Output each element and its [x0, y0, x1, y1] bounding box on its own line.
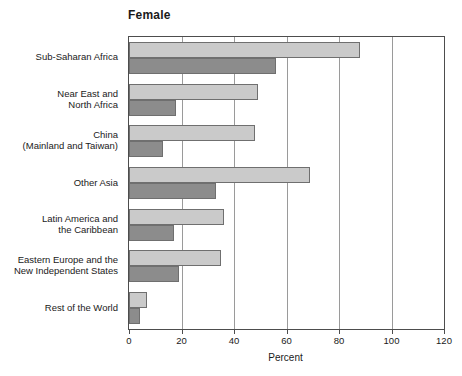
bar — [129, 250, 221, 266]
x-ticklabel: 40 — [229, 335, 240, 346]
x-ticklabel: 120 — [436, 335, 452, 346]
bar-group — [129, 209, 444, 241]
x-axis-ticks: 020406080100120 — [128, 329, 445, 347]
y-axis-label: Sub-Saharan Africa — [0, 51, 118, 62]
x-ticklabel: 20 — [176, 335, 187, 346]
bar-group — [129, 167, 444, 199]
y-axis-label: China (Mainland and Taiwan) — [0, 129, 118, 151]
y-axis-label: Rest of the World — [0, 302, 118, 313]
x-tickmark — [234, 329, 235, 334]
bar — [129, 183, 216, 199]
x-ticklabel: 80 — [334, 335, 345, 346]
bar — [129, 100, 176, 116]
bar-group — [129, 250, 444, 282]
x-axis-title: Percent — [128, 352, 443, 363]
y-axis-category-labels: Sub-Saharan AfricaNear East and North Af… — [0, 36, 124, 328]
bar — [129, 209, 224, 225]
bar — [129, 225, 174, 241]
bar — [129, 84, 258, 100]
bar — [129, 266, 179, 282]
x-ticklabel: 0 — [126, 335, 131, 346]
chart-title: Female — [128, 8, 171, 22]
x-ticklabel: 100 — [384, 335, 400, 346]
x-tickmark — [129, 329, 130, 334]
y-axis-label: Other Asia — [0, 177, 118, 188]
x-tickmark — [182, 329, 183, 334]
bar — [129, 58, 276, 74]
bar-group — [129, 125, 444, 157]
bar-group — [129, 84, 444, 116]
bar — [129, 167, 310, 183]
bar-group — [129, 42, 444, 74]
bar — [129, 308, 140, 324]
bar — [129, 141, 163, 157]
bar-group — [129, 292, 444, 324]
y-axis-label: Eastern Europe and the New Independent S… — [0, 254, 118, 276]
bars-layer — [129, 37, 444, 329]
x-tickmark — [287, 329, 288, 334]
y-axis-label: Latin America and the Caribbean — [0, 213, 118, 235]
plot-area — [128, 36, 445, 330]
bar — [129, 292, 147, 308]
x-tickmark — [444, 329, 445, 334]
x-tickmark — [392, 329, 393, 334]
chart-root: Female Sub-Saharan AfricaNear East and N… — [0, 0, 462, 376]
x-tickmark — [339, 329, 340, 334]
bar — [129, 42, 360, 58]
y-axis-label: Near East and North Africa — [0, 88, 118, 110]
x-ticklabel: 60 — [281, 335, 292, 346]
bar — [129, 125, 255, 141]
